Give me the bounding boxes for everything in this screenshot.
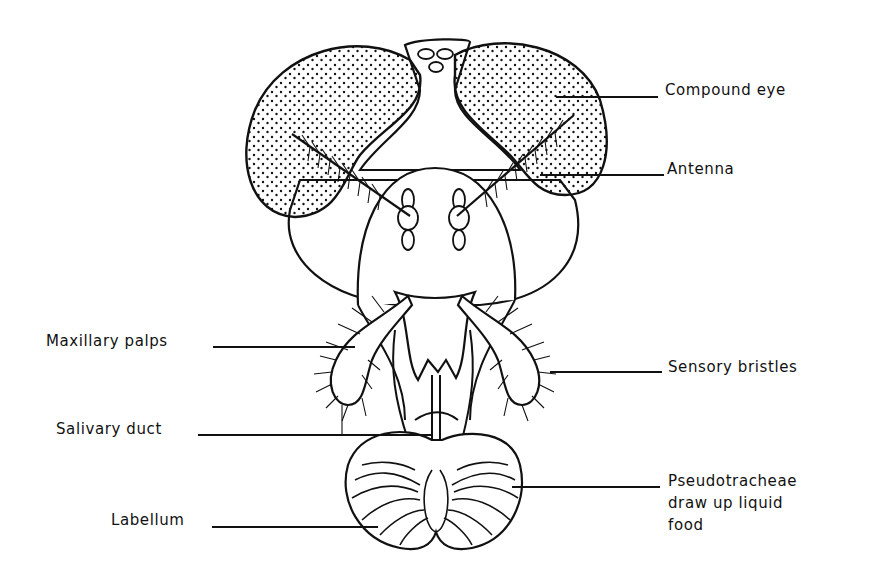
side-line-left [393,330,408,440]
inner-curve [415,413,458,421]
label-labellum: Labellum [111,510,185,530]
label-maxillary-palps: Maxillary palps [46,331,168,351]
compound-eye-right [455,43,607,195]
label-salivary-duct: Salivary duct [56,419,162,439]
label-sensory-bristles: Sensory bristles [668,357,797,377]
label-pseudotracheae: Pseudotracheae draw up liquid food [668,470,797,536]
label-compound-eye: Compound eye [665,80,786,100]
label-antenna: Antenna [667,159,734,179]
maxillary-palp-left [314,296,412,435]
